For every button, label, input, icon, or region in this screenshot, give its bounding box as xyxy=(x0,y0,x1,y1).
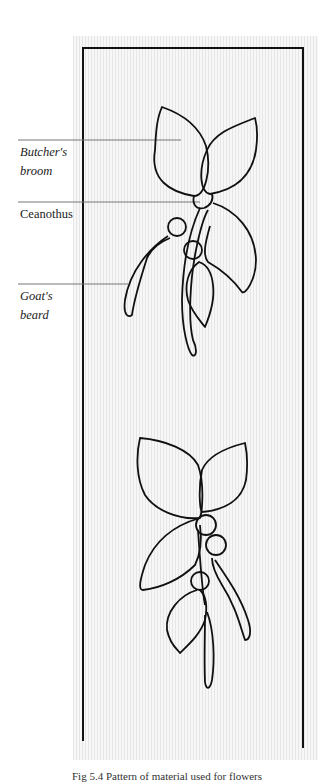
label-goats-beard-line1: Goat's xyxy=(20,289,53,303)
label-goats-beard: Goat's beard xyxy=(20,287,53,325)
label-butchers-broom: Butcher's broom xyxy=(20,143,67,181)
label-butchers-broom-line1: Butcher's xyxy=(20,145,67,159)
figure-caption: Fig 5.4 Pattern of material used for flo… xyxy=(72,770,262,782)
top-motif xyxy=(125,107,258,356)
label-goats-beard-line2: beard xyxy=(20,308,49,322)
bottom-motif xyxy=(137,438,250,688)
label-butchers-broom-line2: broom xyxy=(20,164,52,178)
label-ceanothus: Ceanothus xyxy=(20,205,73,224)
label-ceanothus-text: Ceanothus xyxy=(20,207,73,221)
frame xyxy=(83,48,303,748)
